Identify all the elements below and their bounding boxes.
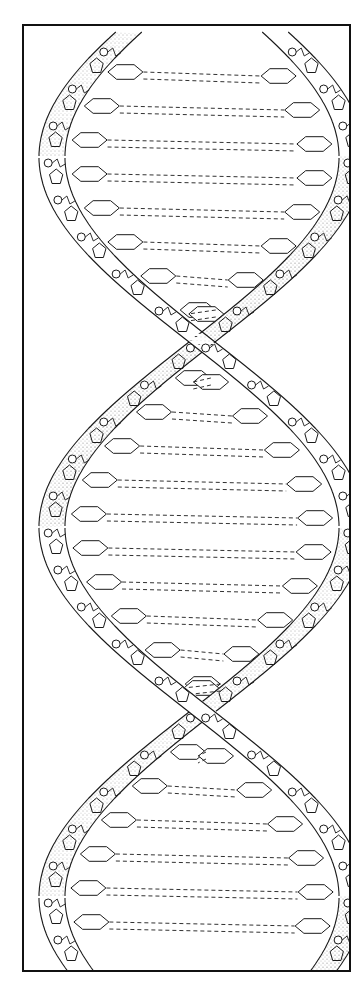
hydrogen-bond bbox=[176, 283, 227, 287]
base-hexagon bbox=[285, 103, 320, 118]
backbone-segment bbox=[46, 932, 74, 936]
backbone-segment bbox=[93, 260, 123, 264]
base-hexagon bbox=[101, 813, 136, 828]
backbone-segment bbox=[39, 896, 65, 900]
backbone-segment bbox=[337, 544, 351, 548]
hydrogen-bond bbox=[137, 827, 267, 831]
backbone-segment bbox=[107, 36, 137, 40]
backbone-segment bbox=[39, 888, 65, 892]
backbone-segment bbox=[291, 620, 321, 624]
backbone-segment bbox=[57, 956, 86, 960]
phosphate-circle bbox=[112, 270, 120, 278]
base-hexagon bbox=[296, 545, 331, 560]
backbone-segment bbox=[67, 80, 96, 84]
phosphate-circle bbox=[44, 159, 52, 167]
base-hexagon bbox=[233, 409, 268, 424]
phosphate-circle bbox=[339, 492, 347, 500]
backbone-segment bbox=[52, 104, 80, 108]
hydrogen-bond bbox=[106, 888, 297, 892]
backbone-segment bbox=[103, 40, 133, 44]
phosphate-circle bbox=[77, 603, 85, 611]
base-hexagon bbox=[71, 881, 106, 896]
phosphate-circle bbox=[112, 640, 120, 648]
backbone-segment bbox=[56, 836, 84, 840]
phosphate-circle bbox=[320, 85, 328, 93]
backbone-segment bbox=[314, 592, 343, 596]
backbone-segment bbox=[80, 64, 110, 68]
backbone-segment bbox=[87, 796, 117, 800]
phosphate-circle bbox=[202, 344, 210, 352]
backbone-segment bbox=[99, 784, 129, 788]
phosphate-circle bbox=[49, 492, 57, 500]
dna-double-helix-illustration bbox=[24, 26, 351, 972]
phosphate-circle bbox=[54, 196, 62, 204]
backbone-segment bbox=[45, 120, 72, 124]
backbone-segment bbox=[55, 952, 83, 956]
base-hexagon bbox=[82, 473, 117, 488]
phosphate-circle bbox=[288, 48, 296, 56]
backbone-segment bbox=[83, 60, 113, 64]
phosphate-circle bbox=[320, 455, 328, 463]
hydrogen-bond bbox=[143, 242, 260, 246]
backbone-segment bbox=[275, 636, 305, 640]
backbone-segment bbox=[99, 44, 129, 48]
backbone-segment bbox=[337, 508, 351, 512]
backbone-segment bbox=[63, 964, 92, 968]
phosphate-circle bbox=[100, 418, 108, 426]
phosphate-circle bbox=[288, 418, 296, 426]
hydrogen-bond bbox=[143, 79, 260, 83]
backbone-segment bbox=[41, 176, 68, 180]
phosphate-circle bbox=[311, 603, 319, 611]
phosphate-circle bbox=[334, 196, 342, 204]
backbone-segment bbox=[97, 264, 127, 268]
backbone-segment bbox=[44, 928, 71, 932]
phosphate-circle bbox=[202, 714, 210, 722]
backbone-segment bbox=[339, 520, 351, 524]
backbone-segment bbox=[83, 800, 113, 804]
backbone-segment bbox=[329, 484, 351, 488]
hydrogen-bond bbox=[120, 106, 284, 110]
hydrogen-bond bbox=[109, 922, 294, 926]
base-hexagon bbox=[84, 99, 119, 114]
phosphate-circle bbox=[320, 825, 328, 833]
phosphate-circle bbox=[140, 751, 148, 759]
hydrogen-bond bbox=[147, 623, 257, 627]
backbone-edge bbox=[65, 32, 351, 896]
backbone-segment bbox=[107, 776, 137, 780]
base-hexagon bbox=[298, 511, 333, 526]
backbone-segment bbox=[318, 464, 347, 468]
base-hexagon bbox=[297, 171, 332, 186]
hydrogen-bond bbox=[120, 215, 284, 219]
backbone-segment bbox=[52, 844, 80, 848]
base-hexagon bbox=[141, 269, 176, 284]
hydrogen-bond bbox=[172, 419, 232, 423]
base-hexagon bbox=[105, 439, 140, 454]
base-hexagon bbox=[261, 239, 296, 254]
base-hexagon bbox=[289, 851, 324, 866]
backbone-segment bbox=[335, 500, 351, 504]
phosphate-circle bbox=[49, 862, 57, 870]
backbone-segment bbox=[51, 204, 79, 208]
backbone-segment bbox=[298, 612, 327, 616]
backbone-segment bbox=[51, 944, 79, 948]
hydrogen-bond bbox=[122, 582, 282, 586]
phosphate-circle bbox=[155, 307, 163, 315]
phosphate-circle bbox=[155, 677, 163, 685]
base-hexagon bbox=[132, 779, 167, 794]
backbone-segment bbox=[87, 56, 117, 60]
phosphate-circle bbox=[248, 381, 256, 389]
phosphate-circle bbox=[68, 455, 76, 463]
backbone-segment bbox=[40, 140, 67, 144]
backbone-edge bbox=[39, 158, 339, 972]
hydrogen-bond bbox=[168, 793, 236, 797]
base-hexagon bbox=[297, 137, 332, 152]
base-hexagon bbox=[73, 541, 108, 556]
backbone-segment bbox=[57, 216, 86, 220]
hydrogen-bond bbox=[108, 181, 297, 185]
backbone-segment bbox=[331, 488, 351, 492]
hydrogen-bond bbox=[107, 521, 297, 525]
backbone-segment bbox=[41, 136, 68, 140]
backbone-segment bbox=[54, 840, 82, 844]
base-hexagon bbox=[268, 817, 303, 832]
base-hexagon bbox=[295, 919, 330, 934]
